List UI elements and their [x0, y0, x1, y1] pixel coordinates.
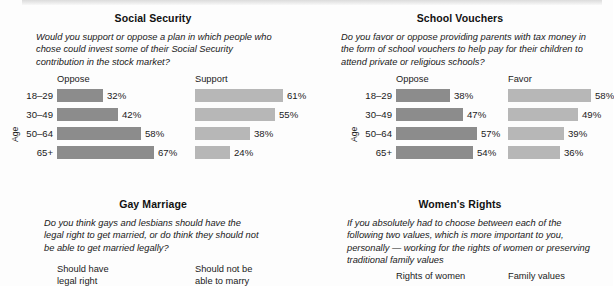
panel-title-school-vouchers: School Vouchers — [307, 12, 613, 24]
bar-value-support: 55% — [279, 108, 298, 121]
bar-support — [195, 127, 250, 140]
category-label: 65+ — [347, 146, 392, 159]
bar-favor — [508, 146, 560, 159]
column-header-oppose: Oppose — [396, 74, 429, 85]
bar-support — [195, 89, 283, 102]
column-header-should-not-be-able-to-marry: Should not be able to marry — [195, 264, 252, 286]
bar-value-oppose: 54% — [477, 146, 496, 159]
bar-value-oppose: 57% — [481, 127, 500, 140]
bar-value-oppose: 42% — [122, 108, 141, 121]
panel-gay-marriage: Gay Marriage Do you think gays and lesbi… — [0, 198, 306, 286]
category-label: 30–49 — [347, 108, 392, 121]
bar-row: 18–29 38% 58% — [307, 89, 613, 106]
chart-social-security: Oppose Support Age 18–29 32% 61% 30–49 4… — [0, 74, 306, 174]
panel-question-school-vouchers: Do you favor or oppose providing parents… — [341, 31, 591, 68]
panel-question-gay-marriage: Do you think gays and lesbians should ha… — [44, 217, 260, 254]
panel-title-social-security: Social Security — [0, 12, 306, 24]
bar-favor — [508, 108, 578, 121]
bar-oppose — [57, 146, 154, 159]
column-header-should-have-legal-right: Should have legal right — [57, 264, 109, 286]
chart-school-vouchers: Oppose Favor Age 18–29 38% 58% 30–49 47%… — [307, 74, 613, 174]
panel-question-social-security: Would you support or oppose a plan in wh… — [36, 31, 280, 68]
category-label: 18–29 — [8, 89, 53, 102]
bar-row: 30–49 42% 55% — [0, 108, 306, 125]
bar-value-support: 38% — [254, 127, 273, 140]
column-header-favor: Favor — [508, 74, 532, 85]
bar-value-favor: 49% — [582, 108, 601, 121]
bar-row: 65+ 67% 24% — [0, 146, 306, 163]
bar-value-support: 61% — [287, 89, 306, 102]
bar-favor — [508, 89, 591, 102]
column-header-support: Support — [195, 74, 228, 85]
category-label: 30–49 — [8, 108, 53, 121]
bar-value-oppose: 58% — [145, 127, 164, 140]
bar-row: 65+ 54% 36% — [307, 146, 613, 163]
bar-favor — [508, 127, 564, 140]
bar-oppose — [57, 108, 118, 121]
page-top-cropped-band — [22, 0, 602, 5]
bar-value-oppose: 32% — [107, 89, 126, 102]
bar-oppose — [57, 89, 103, 102]
bar-value-favor: 36% — [564, 146, 583, 159]
chart-womens-rights: Rights of women Family values — [307, 269, 613, 286]
bar-value-oppose: 38% — [454, 89, 473, 102]
bar-oppose — [396, 89, 450, 102]
chart-gay-marriage: Should have legal right Should not be ab… — [0, 260, 306, 286]
bar-value-favor: 58% — [595, 89, 614, 102]
bar-row: 50–64 58% 38% — [0, 127, 306, 144]
panel-social-security: Social Security Would you support or opp… — [0, 12, 306, 174]
bar-value-oppose: 67% — [158, 146, 177, 159]
bar-row: 50–64 57% 39% — [307, 127, 613, 144]
column-header-family-values: Family values — [508, 271, 565, 283]
panel-title-womens-rights: Women's Rights — [307, 198, 613, 210]
category-label: 65+ — [8, 146, 53, 159]
panel-school-vouchers: School Vouchers Do you favor or oppose p… — [307, 12, 613, 174]
column-header-rights-of-women: Rights of women — [396, 271, 465, 283]
category-label: 50–64 — [8, 127, 53, 140]
bar-value-support: 24% — [234, 146, 253, 159]
bar-oppose — [57, 127, 141, 140]
panel-womens-rights: Women's Rights If you absolutely had to … — [307, 198, 613, 286]
column-header-oppose: Oppose — [57, 74, 90, 85]
panel-question-womens-rights: If you absolutely had to choose between … — [347, 217, 599, 267]
bar-oppose — [396, 127, 477, 140]
bar-value-oppose: 47% — [467, 108, 486, 121]
category-label: 50–64 — [347, 127, 392, 140]
bar-support — [195, 146, 230, 159]
bar-row: 30–49 47% 49% — [307, 108, 613, 125]
panel-title-gay-marriage: Gay Marriage — [0, 198, 306, 210]
bar-oppose — [396, 108, 463, 121]
bar-row: 18–29 32% 61% — [0, 89, 306, 106]
category-label: 18–29 — [347, 89, 392, 102]
bar-oppose — [396, 146, 473, 159]
bar-value-favor: 39% — [568, 127, 587, 140]
bar-support — [195, 108, 275, 121]
